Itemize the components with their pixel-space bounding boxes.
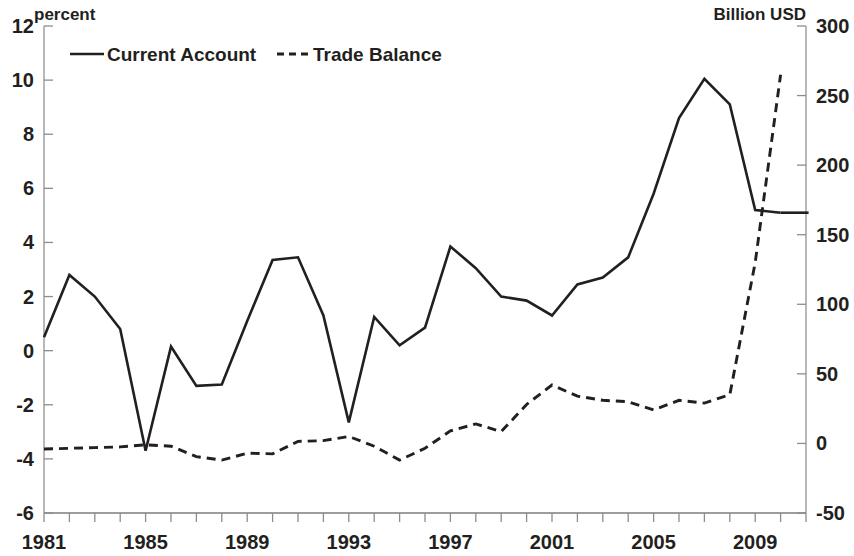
right-tick-label: 50 [816,363,838,385]
right-axis-ticks: 300250200150100500-50 [797,15,849,524]
left-tick-label: -6 [16,502,34,524]
right-tick-label: 150 [816,224,849,246]
chart-legend: Current Account Trade Balance [70,44,442,65]
x-tick-label: 2001 [530,531,575,553]
right-axis-title: Billion USD [713,5,806,24]
right-tick-label: 0 [816,432,827,454]
left-tick-label: 6 [23,177,34,199]
right-tick-label: 300 [816,15,849,37]
x-tick-label: 2009 [733,531,778,553]
left-tick-label: 0 [23,340,34,362]
left-axis-title: percent [34,5,96,24]
x-axis-ticks: 19811985198919931997200120052009 [22,513,806,553]
left-tick-label: 8 [23,123,34,145]
left-tick-label: -4 [16,448,35,470]
x-tick-label: 1989 [225,531,270,553]
right-tick-label: 100 [816,293,849,315]
left-tick-label: 10 [12,69,34,91]
x-tick-label: 1997 [428,531,473,553]
left-tick-label: 2 [23,286,34,308]
plot-series [44,75,809,460]
legend-label-current-account: Current Account [107,44,257,65]
left-tick-label: -2 [16,394,34,416]
x-tick-label: 2005 [631,531,676,553]
series-line-current-account [44,79,781,451]
right-tick-label: 250 [816,85,849,107]
x-tick-label: 1993 [327,531,372,553]
right-tick-label: 200 [816,154,849,176]
legend-label-trade-balance: Trade Balance [313,44,442,65]
x-tick-label: 1981 [22,531,67,553]
line-chart: percent Billion USD 121086420-2-4-6 3002… [0,0,854,556]
series-line-trade-balance [44,75,781,460]
right-tick-label: -50 [816,502,845,524]
chart-container: percent Billion USD 121086420-2-4-6 3002… [0,0,854,556]
left-tick-label: 12 [12,15,34,37]
x-tick-label: 1985 [123,531,168,553]
left-tick-label: 4 [23,231,35,253]
